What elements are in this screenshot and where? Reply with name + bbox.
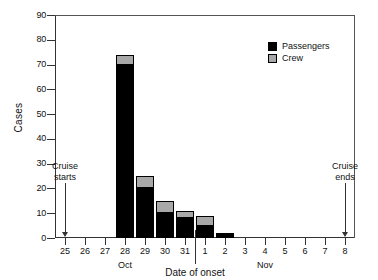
x-axis-tick xyxy=(85,238,86,245)
bar xyxy=(216,233,235,238)
x-axis-tick xyxy=(285,238,286,245)
x-axis-tick xyxy=(125,238,126,245)
y-axis-tick-label: 60 xyxy=(36,85,46,94)
y-axis-tick xyxy=(47,114,55,115)
bar-segment-passengers xyxy=(216,233,235,238)
bar xyxy=(116,55,135,238)
y-axis-tick-label: 80 xyxy=(36,35,46,44)
bar-segment-passengers xyxy=(136,188,155,238)
x-axis-title: Date of onset xyxy=(135,268,255,278)
x-axis-tick xyxy=(225,238,226,245)
bar-segment-crew xyxy=(116,55,135,65)
annotation-label: Cruise ends xyxy=(320,161,370,182)
y-axis-tick-label: 70 xyxy=(36,60,46,69)
x-axis-tick xyxy=(205,238,206,245)
annotation-arrow-head xyxy=(342,232,348,237)
annotation-arrow-line xyxy=(65,183,66,232)
bar xyxy=(156,201,175,238)
legend-item-crew: Crew xyxy=(268,54,330,63)
plot-top-rule xyxy=(55,15,355,16)
x-axis-tick xyxy=(265,238,266,245)
bar-segment-crew xyxy=(196,216,215,226)
bar xyxy=(196,216,215,238)
legend: Passengers Crew xyxy=(268,42,330,66)
y-axis-tick-label: 0 xyxy=(41,234,46,243)
y-axis-tick-label: 40 xyxy=(36,134,46,143)
x-axis-tick xyxy=(185,238,186,245)
x-axis-tick xyxy=(345,238,346,245)
x-axis-tick-label: 8 xyxy=(333,247,357,256)
plot-right-rule xyxy=(354,15,355,238)
y-axis-tick xyxy=(47,188,55,189)
x-axis-tick xyxy=(65,238,66,245)
y-axis-tick xyxy=(47,238,55,239)
bar-segment-crew xyxy=(136,176,155,188)
y-axis-tick xyxy=(47,40,55,41)
y-axis-title: Cases xyxy=(13,88,24,148)
legend-item-passengers: Passengers xyxy=(268,42,330,51)
bar-segment-passengers xyxy=(156,213,175,238)
x-axis-tick xyxy=(165,238,166,245)
x-axis-tick xyxy=(245,238,246,245)
y-axis-tick xyxy=(47,89,55,90)
annotation-arrow-head xyxy=(62,232,68,237)
annotation-arrow-line xyxy=(345,183,346,232)
annotation-label: Cruise starts xyxy=(40,161,90,182)
bar-segment-passengers xyxy=(196,226,215,238)
legend-swatch-crew xyxy=(268,54,277,63)
y-axis-tick xyxy=(47,213,55,214)
bar xyxy=(136,176,155,238)
bar-segment-crew xyxy=(176,211,195,218)
bar-segment-passengers xyxy=(176,218,195,238)
legend-label-crew: Crew xyxy=(282,54,303,63)
x-axis-tick xyxy=(145,238,146,245)
legend-swatch-passengers xyxy=(268,42,277,51)
x-axis-tick xyxy=(105,238,106,245)
y-axis-tick-label: 90 xyxy=(36,11,46,20)
y-axis-tick-label: 20 xyxy=(36,184,46,193)
y-axis-tick xyxy=(47,139,55,140)
bar xyxy=(176,211,195,238)
epidemic-curve-chart: Cases 0102030405060708090 25262728293031… xyxy=(0,0,378,280)
bar-segment-passengers xyxy=(116,65,135,238)
x-axis-tick xyxy=(325,238,326,245)
legend-label-passengers: Passengers xyxy=(282,42,330,51)
x-axis-tick xyxy=(305,238,306,245)
bar-segment-crew xyxy=(156,201,175,213)
y-axis-tick-label: 10 xyxy=(36,209,46,218)
y-axis-tick xyxy=(47,65,55,66)
y-axis-tick-label: 50 xyxy=(36,110,46,119)
y-axis-tick xyxy=(47,15,55,16)
